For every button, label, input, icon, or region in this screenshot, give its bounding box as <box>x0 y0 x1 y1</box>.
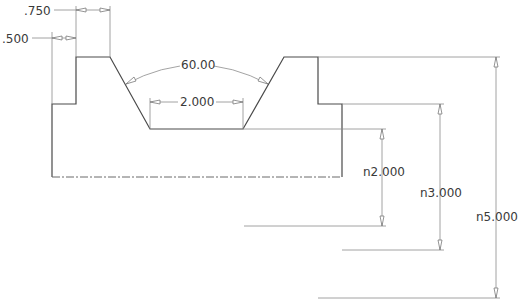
dim-label-step-offset: .500 <box>2 32 29 46</box>
technical-drawing: .750 .500 60.00 2.000 n2.000 <box>0 0 518 303</box>
arrow-icon <box>66 36 76 40</box>
part-outline <box>52 57 342 177</box>
arrow-icon <box>494 288 498 298</box>
arrow-icon <box>258 77 268 84</box>
dim-step-width <box>54 6 110 57</box>
dim-label-height-shoulder: n3.000 <box>420 186 462 200</box>
arrow-icon <box>100 8 110 12</box>
arrow-icon <box>438 240 442 250</box>
arrow-icon <box>52 36 62 40</box>
arrow-icon <box>380 129 384 139</box>
arrow-icon <box>76 8 86 12</box>
arrow-icon <box>380 216 384 226</box>
arrow-icon <box>233 100 243 104</box>
dim-label-groove-bottom: 2.000 <box>180 95 214 109</box>
arrow-icon <box>150 100 160 104</box>
dim-height-overall <box>318 57 500 298</box>
arrow-icon <box>126 77 136 84</box>
dim-label-step-width: .750 <box>24 4 51 18</box>
dim-label-groove-angle: 60.00 <box>181 58 215 72</box>
dim-label-height-groove-bottom: n2.000 <box>363 165 405 179</box>
arrow-icon <box>438 104 442 114</box>
dim-step-offset <box>32 32 76 104</box>
arrow-icon <box>494 57 498 67</box>
dim-label-height-overall: n5.000 <box>476 210 518 224</box>
